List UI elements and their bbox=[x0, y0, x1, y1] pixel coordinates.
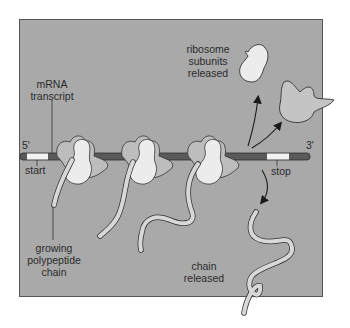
five-prime-label: 5' bbox=[22, 139, 30, 151]
ribosome-1 bbox=[54, 136, 108, 205]
three-prime-label: 3' bbox=[306, 139, 314, 151]
mrna-transcript-label: mRNA transcript bbox=[28, 78, 76, 102]
ribosome-2 bbox=[100, 136, 173, 236]
released-polypeptide-chain bbox=[244, 212, 292, 313]
released-large-subunit bbox=[280, 81, 335, 123]
released-small-subunit bbox=[240, 45, 268, 82]
chain-release-arrow bbox=[262, 170, 267, 202]
subunit-release-arrow-2 bbox=[252, 124, 280, 148]
start-label: start bbox=[25, 164, 45, 176]
chain-released-label: chain released bbox=[182, 260, 226, 284]
subunits-released-label: ribosome subunits released bbox=[186, 43, 230, 79]
start-codon-segment bbox=[27, 154, 48, 160]
stop-codon-segment bbox=[267, 154, 289, 160]
subunit-release-arrow-1 bbox=[248, 98, 258, 146]
growing-chain-label: growing polypeptide chain bbox=[24, 242, 84, 278]
translation-illustration bbox=[0, 0, 350, 328]
stop-label: stop bbox=[271, 165, 291, 177]
